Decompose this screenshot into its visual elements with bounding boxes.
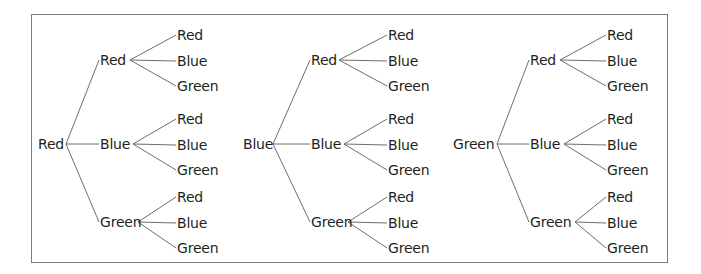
branch-line bbox=[344, 144, 387, 170]
branch-line bbox=[344, 144, 387, 145]
branch-line bbox=[66, 144, 99, 222]
tree-branch-node: Red bbox=[100, 52, 126, 68]
tree-leaf-node: Green bbox=[607, 78, 648, 94]
branch-line bbox=[564, 144, 606, 145]
tree-leaf-node: Green bbox=[177, 78, 218, 94]
branch-line bbox=[348, 197, 387, 222]
branch-line bbox=[130, 60, 176, 61]
branch-line bbox=[138, 222, 176, 223]
tree-branch-node: Blue bbox=[530, 136, 560, 152]
tree-leaf-node: Green bbox=[388, 162, 429, 178]
tree-leaf-node: Green bbox=[607, 240, 648, 256]
branch-line bbox=[66, 60, 99, 144]
tree-leaf-node: Blue bbox=[177, 137, 207, 153]
branch-line bbox=[339, 60, 387, 86]
tree-leaf-node: Red bbox=[607, 27, 633, 43]
tree-branch-node: Blue bbox=[311, 136, 341, 152]
tree-leaf-node: Red bbox=[607, 111, 633, 127]
tree-leaf-node: Blue bbox=[607, 137, 637, 153]
branch-line bbox=[273, 60, 310, 144]
branch-line bbox=[348, 222, 387, 223]
tree-leaf-node: Red bbox=[388, 111, 414, 127]
tree-leaf-node: Blue bbox=[177, 215, 207, 231]
tree-leaf-node: Red bbox=[388, 189, 414, 205]
tree-root-node: Red bbox=[38, 136, 64, 152]
branch-line bbox=[564, 144, 606, 170]
branch-line bbox=[344, 119, 387, 144]
tree-leaf-node: Red bbox=[388, 27, 414, 43]
branch-line bbox=[133, 119, 176, 144]
tree-root-node: Blue bbox=[243, 136, 273, 152]
tree-leaf-node: Blue bbox=[607, 215, 637, 231]
branch-line bbox=[138, 197, 176, 222]
tree-leaf-node: Green bbox=[388, 78, 429, 94]
branch-line bbox=[560, 35, 606, 60]
tree-leaf-node: Blue bbox=[607, 53, 637, 69]
tree-leaf-node: Green bbox=[607, 162, 648, 178]
branch-line bbox=[560, 60, 606, 86]
branch-line bbox=[497, 144, 529, 222]
branch-line bbox=[138, 222, 176, 248]
branch-line bbox=[497, 60, 529, 144]
branch-line bbox=[575, 222, 606, 223]
tree-leaf-node: Red bbox=[177, 189, 203, 205]
tree-root-node: Green bbox=[453, 136, 494, 152]
tree-leaf-node: Green bbox=[177, 240, 218, 256]
tree-leaf-node: Green bbox=[177, 162, 218, 178]
tree-leaf-node: Blue bbox=[177, 53, 207, 69]
branch-line bbox=[575, 222, 606, 248]
branch-line bbox=[560, 60, 606, 61]
branch-line bbox=[130, 35, 176, 60]
tree-branch-node: Green bbox=[100, 214, 141, 230]
tree-leaf-node: Red bbox=[607, 189, 633, 205]
branch-line bbox=[575, 197, 606, 222]
tree-leaf-node: Blue bbox=[388, 137, 418, 153]
tree-leaf-node: Blue bbox=[388, 53, 418, 69]
tree-leaf-node: Red bbox=[177, 27, 203, 43]
branch-line bbox=[339, 60, 387, 61]
tree-leaf-node: Red bbox=[177, 111, 203, 127]
tree-branch-node: Green bbox=[311, 214, 352, 230]
branch-line bbox=[130, 60, 176, 86]
branch-line bbox=[348, 222, 387, 248]
tree-leaf-node: Blue bbox=[388, 215, 418, 231]
tree-branch-node: Red bbox=[311, 52, 337, 68]
tree-leaf-node: Green bbox=[388, 240, 429, 256]
branch-line bbox=[339, 35, 387, 60]
branch-line bbox=[273, 144, 310, 222]
tree-branch-node: Blue bbox=[100, 136, 130, 152]
branch-line bbox=[133, 144, 176, 145]
branch-line bbox=[133, 144, 176, 170]
tree-branch-node: Green bbox=[530, 214, 571, 230]
tree-branch-node: Red bbox=[530, 52, 556, 68]
branch-line bbox=[564, 119, 606, 144]
